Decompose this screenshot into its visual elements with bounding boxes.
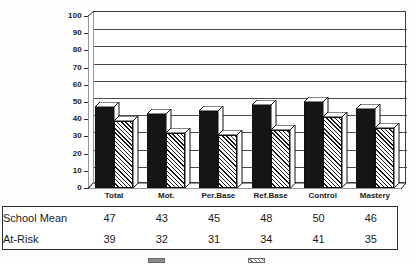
bar-front-face	[323, 117, 342, 188]
bar-front-face	[304, 102, 323, 188]
bar-side-face	[237, 130, 243, 189]
x-axis-tick-label: Ref.Base	[245, 191, 297, 200]
table-row: School Mean474345485046	[3, 207, 398, 229]
chart-screenshot: 1009080706050403020100 TotalMot.Per.Base…	[0, 0, 415, 265]
bar-at-risk-total	[114, 116, 138, 188]
bar-series-layer	[0, 0, 415, 205]
table-row: At-Risk393231344135	[3, 228, 398, 250]
bar-front-face	[271, 130, 290, 188]
y-axis-tick-mark	[84, 85, 88, 86]
table-cell: 48	[240, 207, 292, 229]
bar-side-face	[394, 123, 400, 189]
bar-side-face	[290, 125, 296, 189]
bar-front-face	[199, 111, 218, 188]
bar-at-risk-per-base	[218, 130, 242, 188]
x-axis-tick-label: Total	[88, 191, 140, 200]
x-axis-tick-label: Control	[297, 191, 349, 200]
y-axis-tick-mark	[84, 16, 88, 17]
x-axis-tick-label: Mot.	[140, 191, 192, 200]
table-cell: 43	[136, 207, 188, 229]
y-axis-tick-mark	[84, 68, 88, 69]
legend-swatch	[148, 258, 165, 263]
y-axis-tick-mark	[84, 50, 88, 51]
bar-chart: 1009080706050403020100 TotalMot.Per.Base…	[0, 0, 415, 205]
y-axis-tick-mark	[84, 154, 88, 155]
legend-entry	[248, 258, 265, 263]
table-cell: 32	[136, 228, 188, 250]
table-cell: 31	[188, 228, 240, 250]
table-cell: 46	[345, 207, 398, 229]
bar-side-face	[185, 128, 191, 189]
bar-front-face	[252, 105, 271, 188]
y-axis-tick-mark	[84, 119, 88, 120]
bar-front-face	[114, 121, 133, 188]
bar-at-risk-ref-base	[271, 125, 295, 188]
bar-front-face	[95, 107, 114, 188]
y-axis-tick-mark	[84, 33, 88, 34]
table-cell: 35	[345, 228, 398, 250]
x-axis-tick-label: Per.Base	[192, 191, 244, 200]
y-axis-tick-mark	[84, 171, 88, 172]
bar-front-face	[356, 109, 375, 188]
bar-at-risk-mastery	[375, 123, 399, 188]
bar-front-face	[166, 133, 185, 188]
table-cell: 39	[83, 228, 135, 250]
x-axis-tick-label: Mastery	[349, 191, 401, 200]
y-axis-tick-mark	[84, 136, 88, 137]
table-row-label: At-Risk	[3, 228, 84, 250]
table-cell: 34	[240, 228, 292, 250]
table-cell: 41	[292, 228, 344, 250]
table-cell: 50	[292, 207, 344, 229]
table-row-label: School Mean	[3, 207, 84, 229]
bar-front-face	[375, 128, 394, 188]
bar-side-face	[342, 112, 348, 189]
legend-swatch	[248, 258, 265, 263]
bar-side-face	[133, 116, 139, 189]
bar-front-face	[218, 135, 237, 188]
y-axis-tick-mark	[84, 188, 88, 189]
legend	[0, 258, 415, 265]
y-axis-tick-mark	[84, 102, 88, 103]
table-cell: 45	[188, 207, 240, 229]
data-table: School Mean474345485046At-Risk3932313441…	[2, 206, 398, 250]
bar-at-risk-mot-	[166, 128, 190, 188]
bar-front-face	[147, 114, 166, 188]
legend-entry	[148, 258, 165, 263]
table-cell: 47	[83, 207, 135, 229]
bar-at-risk-control	[323, 112, 347, 188]
